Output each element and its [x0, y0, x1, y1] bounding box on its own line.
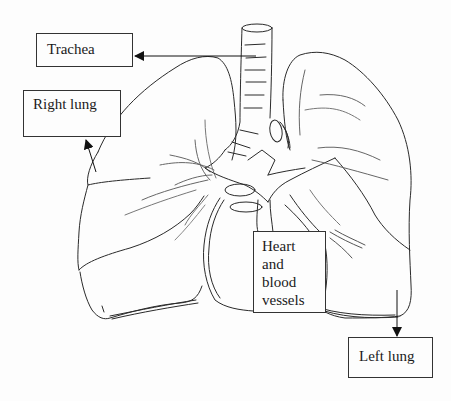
heart-label-line-2: and: [262, 255, 315, 273]
left-lung-label: Left lung: [348, 337, 433, 378]
trachea-label-text: Trachea: [47, 40, 122, 58]
heart-label: Heart and blood vessels: [253, 231, 326, 313]
right-lung-label: Right lung: [23, 90, 121, 137]
right-lung-arrow: [86, 140, 96, 172]
trachea-drawing: [205, 24, 335, 202]
right-lung-label-text: Right lung: [33, 95, 110, 113]
left-lung-label-text: Left lung: [359, 347, 422, 365]
trachea-label: Trachea: [36, 33, 133, 67]
heart-label-line-4: vessels: [262, 291, 315, 309]
heart-label-line-1: Heart: [262, 237, 315, 255]
heart-label-line-3: blood: [262, 273, 315, 291]
